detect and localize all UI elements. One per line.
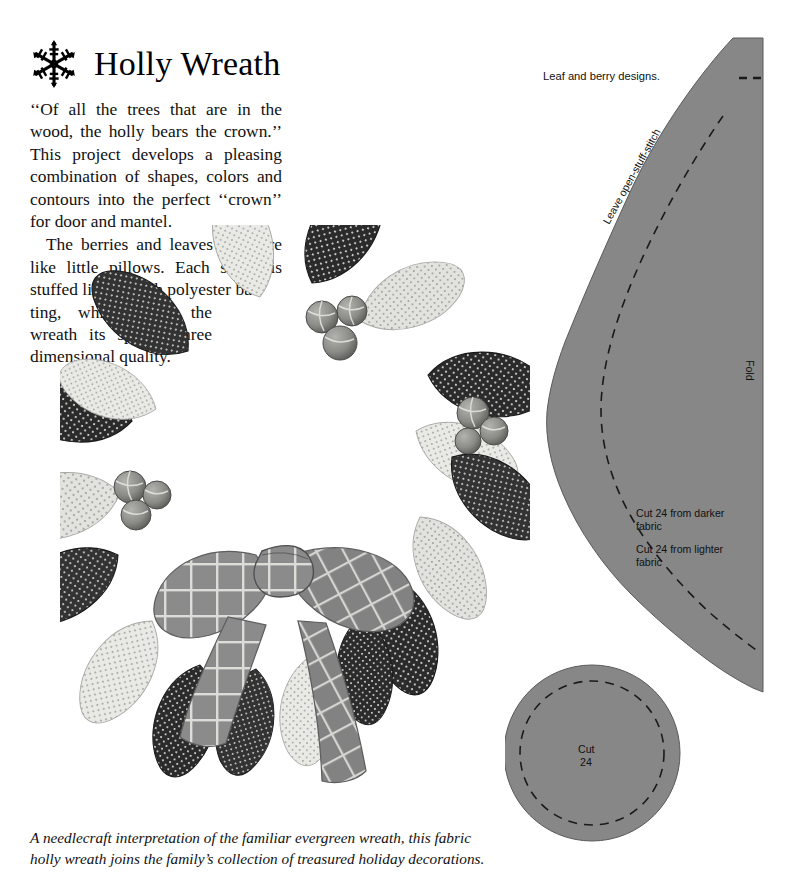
berry-cluster-top	[306, 296, 367, 360]
page-title-row: Holly Wreath	[28, 38, 280, 90]
berry-pattern-piece: Cut 24	[505, 665, 680, 841]
berry-cut-label: Cut	[578, 743, 595, 755]
magazine-page: Holly Wreath ‘‘Of all the trees that are…	[0, 0, 785, 889]
snowflake-icon	[28, 38, 80, 90]
leaf-cut-lighter-line1: Cut 24 from lighter	[636, 543, 724, 555]
leaf-cut-lighter-line2: fabric	[636, 556, 663, 568]
page-title: Holly Wreath	[94, 47, 280, 81]
berry-cut-count: 24	[580, 756, 592, 768]
caption-line-1: A needlecraft interpretation of the fami…	[30, 828, 500, 849]
wreath-photograph	[60, 225, 530, 825]
pattern-diagrams: Leaf and berry designs. Leave open-stuff…	[505, 20, 785, 850]
pattern-heading: Leaf and berry designs.	[543, 70, 660, 82]
berry-cluster-left	[114, 471, 171, 530]
leaf-cut-darker-line2: fabric	[636, 520, 663, 532]
caption-line-2: holly wreath joins the family’s collecti…	[30, 849, 500, 870]
leaf-pattern-piece: Leave open-stuff-stitch Fold Cut 24 from…	[547, 38, 763, 692]
leaf-cut-darker-line1: Cut 24 from darker	[636, 507, 725, 519]
leaf-fold-label: Fold	[744, 360, 756, 381]
photo-caption: A needlecraft interpretation of the fami…	[30, 828, 500, 869]
article-paragraph-1: ‘‘Of all the trees that are in the wood,…	[30, 98, 282, 232]
